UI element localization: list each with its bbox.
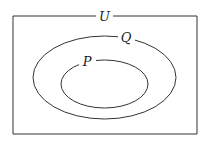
set-q-ellipse: [33, 30, 176, 119]
universe-label: U: [99, 9, 111, 24]
set-p-label: P: [82, 54, 92, 69]
set-q-label: Q: [121, 30, 132, 45]
venn-diagram: U Q P: [0, 0, 206, 143]
set-p-ellipse: [61, 55, 148, 108]
universe-rectangle: [13, 16, 197, 134]
